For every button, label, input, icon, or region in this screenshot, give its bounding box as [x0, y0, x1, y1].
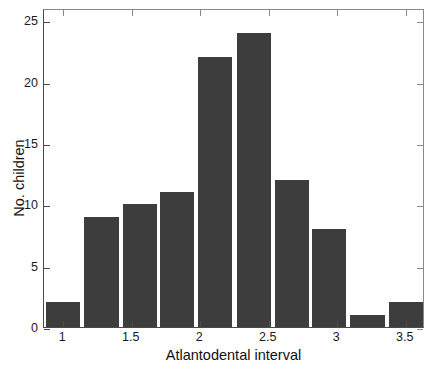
bars-layer — [44, 10, 423, 327]
y-tick-mark — [44, 145, 50, 146]
bar — [123, 204, 157, 327]
x-tick-mark — [337, 321, 338, 327]
x-tick-label: 3 — [316, 331, 356, 344]
y-tick-mark-right — [417, 268, 423, 269]
y-tick-mark — [44, 206, 50, 207]
bar — [237, 33, 271, 327]
y-tick-mark-right — [417, 84, 423, 85]
bar — [350, 315, 384, 327]
x-tick-label: 1 — [42, 331, 82, 344]
x-tick-mark — [132, 321, 133, 327]
bar — [198, 57, 232, 327]
x-tick-label: 3.5 — [385, 331, 425, 344]
y-tick-label: 0 — [4, 322, 38, 335]
x-tick-mark-top — [200, 10, 201, 16]
x-tick-mark-top — [132, 10, 133, 16]
bar — [84, 217, 118, 327]
bar — [160, 192, 194, 327]
bar — [275, 180, 309, 327]
y-tick-mark-right — [417, 22, 423, 23]
y-tick-label: 15 — [4, 138, 38, 151]
histogram-figure: 0510152025 11.522.533.5 Atlantodental in… — [0, 0, 446, 369]
y-tick-label: 25 — [4, 15, 38, 28]
y-tick-mark — [44, 329, 50, 330]
y-tick-mark-right — [417, 145, 423, 146]
x-tick-label: 1.5 — [111, 331, 151, 344]
x-tick-mark — [63, 321, 64, 327]
x-tick-mark-top — [63, 10, 64, 16]
x-axis-title: Atlantodental interval — [43, 347, 424, 363]
x-tick-mark — [406, 321, 407, 327]
y-axis-tick-labels: 0510152025 — [0, 9, 38, 328]
x-tick-mark-top — [337, 10, 338, 16]
x-tick-label: 2 — [179, 331, 219, 344]
x-tick-label: 2.5 — [248, 331, 288, 344]
y-tick-mark — [44, 84, 50, 85]
y-tick-mark — [44, 268, 50, 269]
bar — [312, 229, 346, 327]
y-tick-mark — [44, 22, 50, 23]
x-tick-mark — [269, 321, 270, 327]
x-tick-mark — [200, 321, 201, 327]
y-tick-label: 10 — [4, 199, 38, 212]
x-tick-mark-top — [269, 10, 270, 16]
y-tick-mark-right — [417, 329, 423, 330]
y-tick-label: 20 — [4, 77, 38, 90]
x-tick-mark-top — [406, 10, 407, 16]
y-tick-mark-right — [417, 206, 423, 207]
plot-area — [43, 9, 424, 328]
y-tick-label: 5 — [4, 261, 38, 274]
